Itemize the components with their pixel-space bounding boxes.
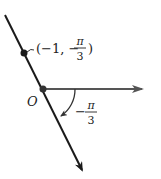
origin-label: O	[27, 94, 38, 109]
svg-text:(−1, −: (−1, −	[36, 41, 79, 56]
point-label: (−1, − π 3 )	[36, 35, 93, 63]
svg-text:3: 3	[77, 50, 84, 63]
polar-diagram: (−1, − π 3 ) O − π 3	[0, 0, 161, 179]
origin-dot	[40, 86, 47, 93]
svg-text:3: 3	[88, 114, 95, 127]
svg-text:π: π	[86, 99, 95, 112]
svg-text:π: π	[75, 35, 84, 48]
angle-label: − π 3	[75, 99, 97, 127]
point-leader	[27, 49, 34, 52]
point-dot	[21, 50, 28, 57]
terminal-line	[5, 15, 82, 170]
angle-arc	[61, 89, 75, 116]
svg-text:−: −	[75, 104, 86, 119]
svg-text:): )	[88, 41, 93, 56]
